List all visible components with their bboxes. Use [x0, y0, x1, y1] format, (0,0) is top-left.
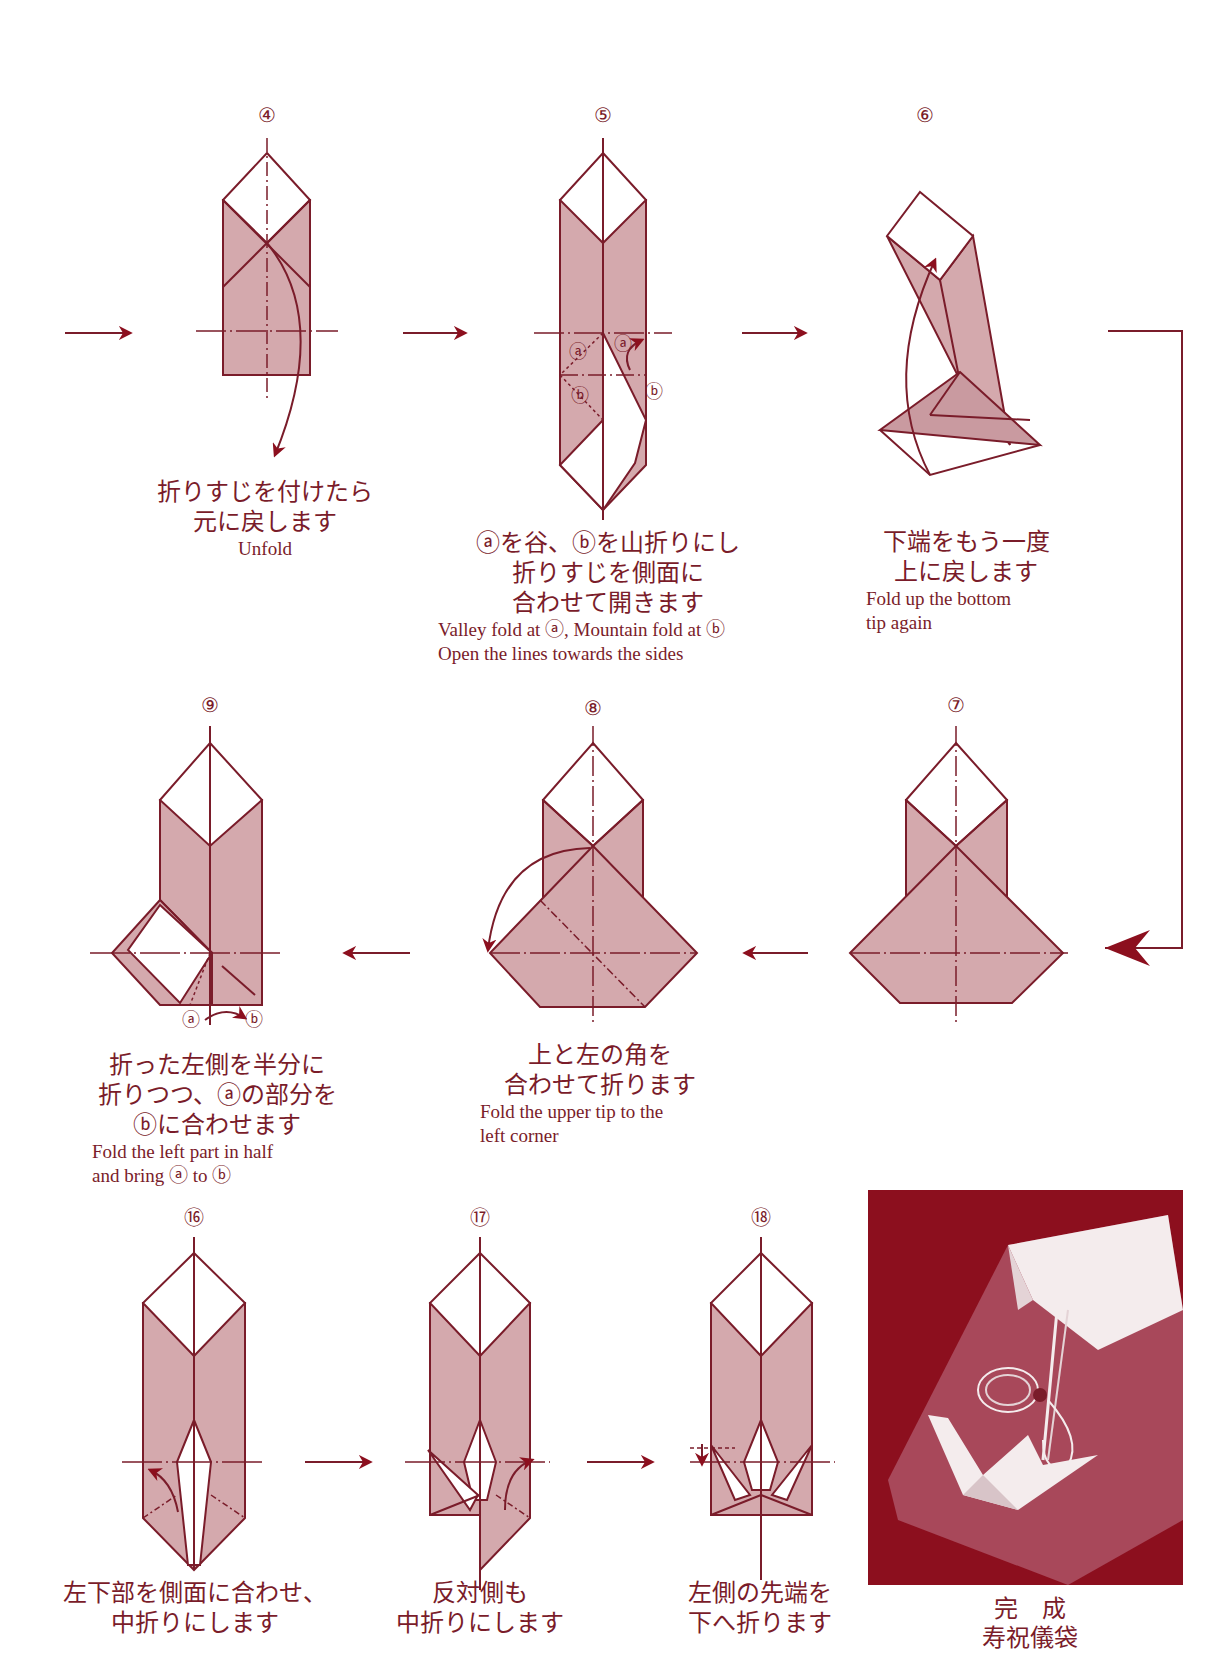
final-photo: [868, 1190, 1183, 1585]
label-b-step9: ⓑ: [245, 1009, 263, 1030]
step-18-jp-1: 左側の先端を: [665, 1578, 855, 1608]
step-number-17: ⑰: [470, 1207, 490, 1229]
final-caption: 完 成 寿祝儀袋: [940, 1595, 1120, 1653]
step-18-caption: 左側の先端を 下へ折ります: [665, 1578, 855, 1638]
step-5-en-2: Open the lines towards the sides: [438, 642, 778, 666]
step-5-caption: ⓐを谷、ⓑを山折りにし 折りすじを側面に 合わせて開きます Valley fol…: [438, 528, 778, 666]
step-6-caption: 下端をもう一度 上に戻します Fold up the bottom tip ag…: [866, 527, 1066, 635]
step-9-jp-3: ⓑに合わせます: [92, 1110, 342, 1140]
folded-envelope-with-crane-photo: [868, 1190, 1183, 1585]
step-number-8: ⑧: [584, 697, 602, 719]
step-number-18: ⑱: [751, 1207, 771, 1229]
step-5-jp-1: ⓐを谷、ⓑを山折りにし: [438, 528, 778, 558]
step-9-diagram: [90, 726, 280, 1025]
step-8-jp-1: 上と左の角を: [480, 1040, 720, 1070]
step-7-diagram: [850, 726, 1068, 1025]
step-8-caption: 上と左の角を 合わせて折ります Fold the upper tip to th…: [480, 1040, 720, 1148]
step-16-caption: 左下部を側面に合わせ、 中折りにします: [60, 1578, 330, 1638]
step-16-diagram: [122, 1237, 266, 1570]
step-9-en-2: and bring ⓐ to ⓑ: [92, 1164, 342, 1188]
step-number-6: ⑥: [916, 104, 934, 126]
step-8-diagram: [488, 726, 697, 1025]
step-4-diagram: [196, 138, 338, 455]
step-number-5: ⑤: [594, 104, 612, 126]
step-6-jp-2: 上に戻します: [866, 557, 1066, 587]
step-9-caption: 折った左側を半分に 折りつつ、ⓐの部分を ⓑに合わせます Fold the le…: [92, 1050, 342, 1188]
step-8-en-1: Fold the upper tip to the: [480, 1100, 720, 1124]
step-5-diagram: [534, 138, 672, 520]
step-9-en-1: Fold the left part in half: [92, 1140, 342, 1164]
step-5-jp-2: 折りすじを側面に: [438, 558, 778, 588]
step-4-jp-2: 元に戻します: [140, 507, 390, 537]
step-4-en-1: Unfold: [140, 537, 390, 561]
final-subtitle: 寿祝儀袋: [940, 1624, 1120, 1653]
label-b-right: ⓑ: [645, 381, 663, 402]
step-5-jp-3: 合わせて開きます: [438, 588, 778, 618]
step-17-caption: 反対側も 中折りにします: [380, 1578, 580, 1638]
final-title: 完 成: [940, 1595, 1120, 1624]
label-a-left: ⓐ: [569, 341, 587, 362]
step-5-en-1: Valley fold at ⓐ, Mountain fold at ⓑ: [438, 618, 778, 642]
connector-line: [1105, 331, 1182, 948]
step-4-caption: 折りすじを付けたら 元に戻します Unfold: [140, 477, 390, 561]
step-8-jp-2: 合わせて折ります: [480, 1070, 720, 1100]
label-a-right: ⓐ: [614, 333, 632, 354]
step-6-jp-1: 下端をもう一度: [866, 527, 1066, 557]
step-17-jp-1: 反対側も: [380, 1578, 580, 1608]
step-6-en-1: Fold up the bottom: [866, 587, 1066, 611]
step-18-diagram: [690, 1237, 835, 1580]
step-number-7: ⑦: [947, 694, 965, 716]
label-b-left: ⓑ: [571, 385, 589, 406]
step-9-jp-1: 折った左側を半分に: [92, 1050, 342, 1080]
step-number-4: ④: [258, 104, 276, 126]
step-16-jp-1: 左下部を側面に合わせ、: [60, 1578, 330, 1608]
step-number-16: ⑯: [184, 1207, 204, 1229]
step-8-en-2: left corner: [480, 1124, 720, 1148]
step-17-diagram: [405, 1237, 550, 1590]
step-4-jp-1: 折りすじを付けたら: [140, 477, 390, 507]
step-6-en-2: tip again: [866, 611, 1066, 635]
step-6-diagram: [880, 192, 1040, 475]
label-a-step9: ⓐ: [182, 1009, 200, 1030]
step-18-jp-2: 下へ折ります: [665, 1608, 855, 1638]
step-17-jp-2: 中折りにします: [380, 1608, 580, 1638]
step-16-jp-2: 中折りにします: [60, 1608, 330, 1638]
step-number-9: ⑨: [201, 694, 219, 716]
step-9-jp-2: 折りつつ、ⓐの部分を: [92, 1080, 342, 1110]
